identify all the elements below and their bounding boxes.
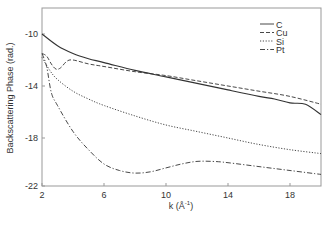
y-tick-label: -22 bbox=[25, 181, 38, 191]
x-tick-label: 18 bbox=[285, 190, 295, 200]
x-tick-label: 14 bbox=[223, 190, 233, 200]
series-line-cu bbox=[42, 54, 321, 105]
legend: CCuSiPt bbox=[260, 20, 288, 56]
y-tick-label: -10 bbox=[25, 29, 38, 39]
data-series bbox=[42, 34, 321, 174]
y-tick-label: -18 bbox=[25, 133, 38, 143]
series-line-si bbox=[42, 57, 321, 153]
legend-label: Pt bbox=[276, 45, 285, 55]
y-axis-label: Backscattering Phase (rad.) bbox=[5, 42, 15, 153]
x-tick-label: 2 bbox=[39, 190, 44, 200]
y-tick-label: -14 bbox=[25, 81, 38, 91]
backscattering-phase-chart: 26101418 -10-14-18-22 CCuSiPt k (Å-1) Ba… bbox=[0, 0, 328, 225]
x-axis-label: k (Å-1) bbox=[169, 200, 193, 211]
x-tick-label: 6 bbox=[101, 190, 106, 200]
x-tick-label: 10 bbox=[161, 190, 171, 200]
series-line-pt bbox=[42, 54, 321, 175]
